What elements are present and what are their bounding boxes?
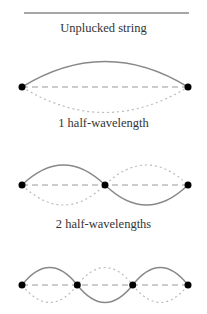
string-dotted-curve <box>22 87 188 113</box>
node-dot <box>19 182 26 189</box>
node-dot <box>74 282 81 289</box>
node-dot <box>129 282 136 289</box>
node-dot <box>185 282 192 289</box>
mode-1-diagram <box>19 62 192 113</box>
mode-3-diagram <box>19 268 192 303</box>
node-dot <box>19 282 26 289</box>
node-dot <box>185 182 192 189</box>
mode-2-diagram <box>19 165 192 205</box>
node-dot <box>19 84 26 91</box>
node-dot <box>102 182 109 189</box>
label-mode-1: 1 half-wavelength <box>0 116 207 131</box>
node-dot <box>185 84 192 91</box>
standing-wave-diagram <box>0 0 207 314</box>
label-unplucked: Unplucked string <box>0 21 207 36</box>
string-solid-curve <box>22 62 188 88</box>
label-mode-2: 2 half-wavelengths <box>0 217 207 232</box>
